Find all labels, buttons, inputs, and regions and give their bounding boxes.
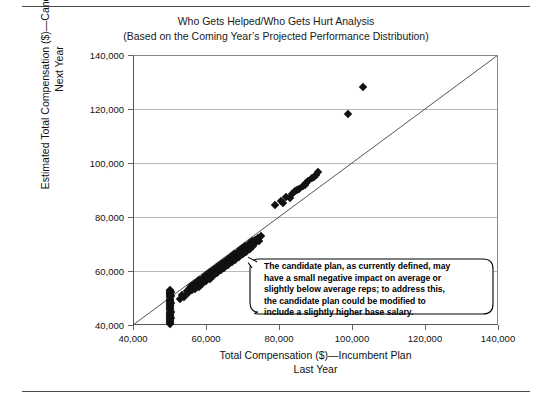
x-tick-mark (352, 325, 353, 330)
chart-subtitle: (Based on the Coming Year’s Projected Pe… (0, 29, 552, 44)
y-tick-label: 120,000 (90, 104, 124, 115)
x-tick-mark (133, 325, 134, 330)
y-tick-label: 100,000 (90, 158, 124, 169)
y-tick-label: 40,000 (95, 320, 124, 331)
x-tick-mark (498, 325, 499, 330)
x-tick-mark (425, 325, 426, 330)
callout-line-4: the candidate plan could be modified to (264, 296, 488, 308)
y-tick-label: 80,000 (95, 212, 124, 223)
x-tick-label: 140,000 (481, 333, 515, 344)
y-tick-label: 140,000 (90, 50, 124, 61)
annotation-callout: The candidate plan, as currently defined… (248, 252, 498, 324)
x-tick-mark (279, 325, 280, 330)
x-tick-mark (206, 325, 207, 330)
callout-line-1: The candidate plan, as currently defined… (264, 261, 488, 273)
callout-line-5: include a slightly higher base salary. (264, 307, 488, 319)
y-axis-title-line1: Estimated Total Compensation ($)—Candida… (38, 0, 52, 219)
chart-page: Who Gets Helped/Who Gets Hurt Analysis (… (0, 0, 552, 409)
chart-title-block: Who Gets Helped/Who Gets Hurt Analysis (… (0, 14, 552, 44)
y-tick-label: 60,000 (95, 266, 124, 277)
chart-title: Who Gets Helped/Who Gets Hurt Analysis (0, 14, 552, 29)
x-axis-title: Total Compensation ($)—Incumbent Plan La… (133, 348, 498, 376)
x-axis-title-line2: Last Year (133, 362, 498, 376)
y-axis-title-line2: Next Year (52, 0, 66, 219)
y-axis-title: Estimated Total Compensation ($)—Candida… (38, 0, 66, 219)
x-tick-label: 80,000 (264, 333, 293, 344)
callout-line-2: have a small negative impact on average … (264, 273, 488, 285)
x-axis-title-line1: Total Compensation ($)—Incumbent Plan (133, 348, 498, 362)
top-divider-rule (22, 6, 530, 7)
callout-line-3: slightly below average reps; to address … (264, 284, 488, 296)
x-tick-label: 100,000 (335, 333, 369, 344)
x-tick-label: 120,000 (408, 333, 442, 344)
x-tick-label: 60,000 (191, 333, 220, 344)
callout-text: The candidate plan, as currently defined… (264, 261, 488, 319)
bottom-divider-rule (22, 391, 530, 392)
x-tick-label: 40,000 (118, 333, 147, 344)
